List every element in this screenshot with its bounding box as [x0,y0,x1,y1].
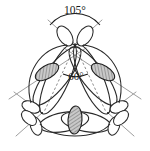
small-lobes-bottomleft-group [19,98,44,136]
vertex-mark-bottom-right [107,112,109,114]
angle-label-60: 60° [68,70,83,82]
angle-label-105: 105° [64,4,86,16]
vertex-mark-top [74,44,77,47]
vertex-mark-bottom-left [41,112,43,114]
orbital-diagram-canvas: 105° 60° [0,0,150,151]
orbital-diagram-figure: 105° 60° [0,0,150,151]
small-lobes-bottomright-group [106,98,131,136]
